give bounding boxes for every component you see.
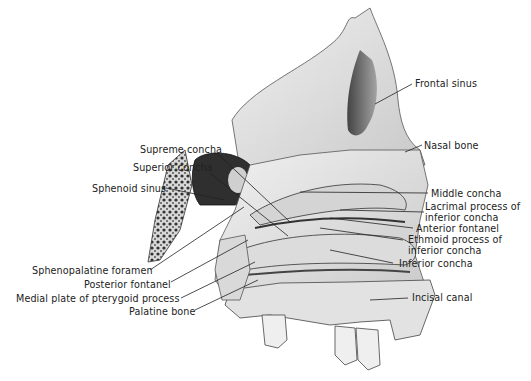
label-ethmoid-process-line1: Ethmoid process of	[408, 234, 502, 245]
label-ethmoid-process: Ethmoid process of inferior concha	[408, 234, 502, 256]
label-posterior-fontanel: Posterior fontanel	[84, 279, 171, 290]
label-nasal-bone: Nasal bone	[424, 140, 479, 151]
tooth-1	[262, 315, 287, 348]
anatomy-figure: Supreme concha Superior concha Sphenoid …	[0, 0, 531, 381]
label-lacrimal-process: Lacrimal process of inferior concha	[425, 201, 520, 223]
label-lacrimal-process-line1: Lacrimal process of	[425, 201, 520, 212]
label-sphenoid-sinus: Sphenoid sinus	[92, 183, 166, 194]
label-frontal-sinus: Frontal sinus	[415, 78, 477, 89]
tooth-3	[356, 328, 380, 370]
label-inferior-concha: Inferior concha	[399, 258, 473, 269]
label-superior-concha: Superior concha	[133, 162, 213, 173]
label-incisal-canal: Incisal canal	[412, 292, 473, 303]
label-palatine-bone: Palatine bone	[129, 306, 195, 317]
label-lacrimal-process-line2: inferior concha	[425, 212, 520, 223]
tooth-2	[335, 326, 357, 365]
label-sphenopalatine-foramen: Sphenopalatine foramen	[32, 265, 153, 276]
label-medial-plate-pterygoid: Medial plate of pterygoid process	[16, 293, 179, 304]
palate	[225, 280, 435, 340]
label-ethmoid-process-line2: inferior concha	[408, 245, 502, 256]
label-supreme-concha: Supreme concha	[140, 144, 222, 155]
label-anterior-fontanel: Anterior fontanel	[416, 223, 499, 234]
label-middle-concha: Middle concha	[431, 188, 502, 199]
